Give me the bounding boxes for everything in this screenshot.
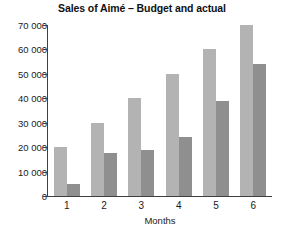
bar-group	[203, 25, 229, 196]
x-axis-line	[47, 196, 272, 197]
bar-group	[54, 25, 80, 196]
bar-group	[166, 25, 192, 196]
x-axis-title: Months	[48, 215, 272, 226]
bar-budget-4	[166, 74, 179, 196]
bar-group	[240, 25, 266, 196]
bar-actual-4	[179, 137, 192, 196]
bar-budget-1	[54, 147, 67, 196]
y-axis-tick-mark	[43, 196, 47, 197]
bar-actual-1	[67, 184, 80, 196]
y-axis-tick-label: 0	[6, 191, 47, 202]
x-axis-tick-label: 2	[101, 200, 107, 211]
bar-chart: Sales of Aimé – Budget and actual 010 00…	[0, 0, 284, 236]
y-axis-tick-mark	[43, 74, 47, 75]
x-axis-tick-label: 3	[139, 200, 145, 211]
y-axis-tick-label: 60 000	[6, 44, 47, 55]
bar-actual-5	[216, 101, 229, 196]
y-axis-tick-label: 10 000	[6, 166, 47, 177]
y-axis-tick-mark	[43, 172, 47, 173]
chart-title: Sales of Aimé – Budget and actual	[0, 2, 284, 14]
y-axis-tick-label: 70 000	[6, 20, 47, 31]
bar-actual-2	[104, 153, 117, 196]
y-axis-tick-mark	[43, 147, 47, 148]
y-axis-tick-label: 20 000	[6, 142, 47, 153]
bar-budget-5	[203, 49, 216, 196]
x-axis-tick-label: 6	[251, 200, 257, 211]
y-axis-tick-mark	[43, 25, 47, 26]
y-axis-tick-mark	[43, 98, 47, 99]
plot-area	[48, 25, 272, 196]
bar-group	[91, 25, 117, 196]
y-axis-tick-label: 50 000	[6, 68, 47, 79]
y-axis-tick-label: 40 000	[6, 93, 47, 104]
bar-actual-6	[253, 64, 266, 196]
bar-budget-6	[240, 25, 253, 196]
y-axis-tick-label: 30 000	[6, 117, 47, 128]
bar-budget-3	[128, 98, 141, 196]
y-axis-tick-mark	[43, 123, 47, 124]
x-axis-tick-label: 4	[176, 200, 182, 211]
bar-actual-3	[141, 150, 154, 196]
x-axis-tick-label: 5	[213, 200, 219, 211]
bar-budget-2	[91, 123, 104, 196]
x-axis-tick-label: 1	[64, 200, 70, 211]
bar-group	[128, 25, 154, 196]
y-axis-tick-mark	[43, 49, 47, 50]
